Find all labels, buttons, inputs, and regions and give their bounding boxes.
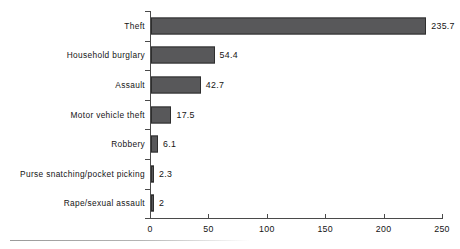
bar-value-label: 235.7	[431, 21, 455, 31]
bar-value-label: 6.1	[163, 139, 176, 149]
bar	[151, 136, 158, 153]
category-label: Theft	[124, 21, 145, 31]
y-tick	[145, 70, 150, 71]
x-tick-label: 200	[376, 224, 392, 234]
x-tick-label: 250	[434, 224, 450, 234]
bar-value-label: 42.7	[206, 80, 224, 90]
bar-value-label: 54.4	[220, 50, 238, 60]
x-tick-label: 100	[259, 224, 275, 234]
bar	[151, 106, 171, 123]
x-tick	[150, 214, 151, 219]
bar-row: Motor vehicle theft17.5	[0, 100, 460, 130]
x-tick	[325, 214, 326, 219]
x-tick	[442, 214, 443, 219]
category-label: Motor vehicle theft	[71, 110, 145, 120]
y-tick	[145, 100, 150, 101]
footer-divider	[10, 240, 250, 241]
y-tick	[145, 189, 150, 190]
x-tick	[384, 214, 385, 219]
y-tick	[145, 129, 150, 130]
bar	[151, 76, 201, 93]
category-label: Purse snatching/pocket picking	[20, 169, 145, 179]
bar-row: Theft235.7	[0, 11, 460, 41]
y-tick	[145, 11, 150, 12]
bar-row: Rape/sexual assault2	[0, 189, 460, 219]
category-label: Rape/sexual assault	[64, 198, 145, 208]
bar-row: Assault42.7	[0, 70, 460, 100]
category-label: Assault	[115, 80, 145, 90]
bar-value-label: 17.5	[176, 110, 194, 120]
bar-row: Household burglary54.4	[0, 41, 460, 71]
x-tick-label: 0	[147, 224, 152, 234]
bar-row: Purse snatching/pocket picking2.3	[0, 159, 460, 189]
x-tick-label: 150	[317, 224, 333, 234]
bar-chart: Theft235.7Household burglary54.4Assault4…	[0, 0, 460, 249]
y-tick	[145, 159, 150, 160]
bar	[151, 17, 426, 34]
y-tick	[145, 41, 150, 42]
bar-row: Robbery6.1	[0, 129, 460, 159]
x-tick	[208, 214, 209, 219]
category-label: Robbery	[111, 139, 145, 149]
bar	[151, 47, 215, 64]
bar	[151, 195, 154, 212]
bar-value-label: 2.3	[159, 169, 172, 179]
bar-value-label: 2	[159, 198, 164, 208]
plot-area: Theft235.7Household burglary54.4Assault4…	[0, 0, 460, 249]
category-label: Household burglary	[67, 50, 145, 60]
x-tick-label: 50	[203, 224, 213, 234]
x-tick	[267, 214, 268, 219]
bar	[151, 165, 154, 182]
